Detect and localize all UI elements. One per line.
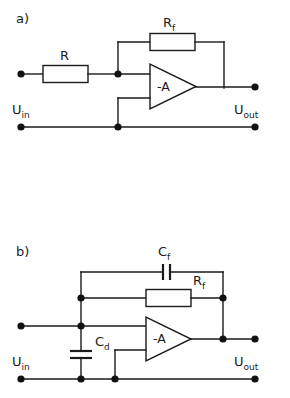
resistor-r-body — [43, 66, 88, 83]
opamp-gain-label-a: -A — [157, 79, 170, 94]
circuit-diagram-canvas: a) R Rf -A — [0, 0, 290, 398]
node-b-feedback-left — [77, 294, 84, 301]
resistor-rf-label-a: Rf — [163, 15, 176, 33]
terminal-label-uin-a: Uin — [12, 102, 30, 120]
resistor-r-label: R — [60, 48, 69, 63]
panel-b-group: b) Cf Rf — [12, 244, 259, 383]
node-b-output — [219, 335, 226, 342]
node-a-inverting — [114, 70, 121, 77]
panel-a-group: a) R Rf -A — [12, 11, 259, 131]
capacitor-cf-label: Cf — [158, 244, 171, 262]
resistor-rf-body-b — [146, 290, 191, 307]
circuit-figure: a) R Rf -A — [0, 0, 290, 398]
terminal-b-output-bottom — [251, 375, 258, 382]
resistor-rf-body-a — [150, 34, 195, 51]
terminal-label-uin-b: Uin — [12, 354, 30, 372]
node-a-ground — [114, 123, 121, 130]
terminal-b-input-bottom — [17, 375, 24, 382]
panel-b-tag: b) — [16, 244, 29, 259]
terminal-b-input-top — [17, 322, 24, 329]
terminal-a-output-bottom — [251, 123, 258, 130]
panel-a-tag: a) — [16, 11, 29, 26]
terminal-a-input-top — [17, 70, 24, 77]
resistor-rf-label-b: Rf — [193, 273, 206, 291]
node-b-feedback-right — [219, 294, 226, 301]
node-b-ground-cd — [77, 375, 84, 382]
node-b-inverting — [77, 322, 84, 329]
terminal-a-input-bottom — [17, 123, 24, 130]
opamp-gain-label-b: -A — [153, 331, 166, 346]
terminal-label-uout-b: Uout — [234, 354, 259, 372]
terminal-a-output-top — [251, 83, 258, 90]
terminal-label-uout-a: Uout — [234, 102, 259, 120]
node-b-ground-amp — [111, 375, 118, 382]
terminal-b-output-top — [251, 335, 258, 342]
capacitor-cd-label: Cd — [95, 334, 110, 352]
